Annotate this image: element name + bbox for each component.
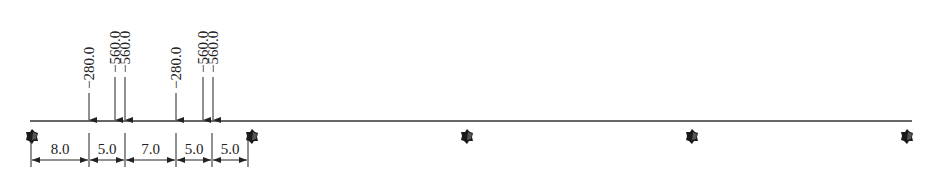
support-icon — [686, 129, 698, 144]
point-load: −280.0 — [81, 47, 97, 120]
support-icon — [461, 129, 473, 144]
beam-diagram: −280.0−560.0−560.0−280.0−560.0−560.0 8.0… — [0, 0, 936, 181]
point-load: −560.0 — [117, 31, 133, 120]
dimension-segment: 8.0 — [32, 141, 88, 160]
dimension-segment: 5.0 — [177, 141, 211, 160]
support-icon — [901, 129, 913, 144]
dimension-label: 7.0 — [141, 141, 160, 157]
support-icon — [26, 129, 38, 144]
loads-group: −280.0−560.0−560.0−280.0−560.0−560.0 — [81, 31, 221, 120]
dimension-segment: 5.0 — [90, 141, 124, 160]
point-load: −560.0 — [205, 31, 221, 120]
dimension-label: 5.0 — [185, 141, 204, 157]
dimension-segment: 5.0 — [213, 141, 247, 160]
load-label: −280.0 — [81, 47, 97, 89]
dimension-segment: 7.0 — [126, 141, 175, 160]
dimension-label: 5.0 — [98, 141, 117, 157]
load-label: −280.0 — [168, 47, 184, 89]
load-label: −560.0 — [117, 31, 133, 73]
point-load: −280.0 — [168, 47, 184, 120]
load-label: −560.0 — [205, 31, 221, 73]
dimension-label: 5.0 — [221, 141, 240, 157]
dimension-label: 8.0 — [51, 141, 70, 157]
dimension-group: 8.05.07.05.05.0 — [31, 133, 248, 167]
